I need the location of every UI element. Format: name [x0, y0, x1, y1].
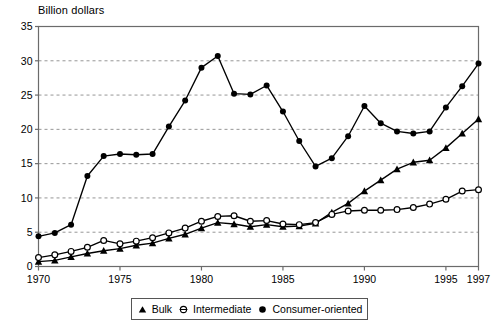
plot-frame	[39, 27, 479, 267]
open-circle-icon	[178, 304, 189, 315]
legend-item-bulk: Bulk	[137, 304, 172, 315]
chart-legend: Bulk Intermediate Consumer-oriented	[131, 298, 368, 320]
data-series	[35, 53, 482, 265]
legend-item-intermediate: Intermediate	[178, 304, 251, 315]
svg-text:1970: 1970	[27, 273, 51, 285]
svg-text:1980: 1980	[190, 273, 214, 285]
filled-triangle-icon	[137, 304, 148, 315]
filled-circle-icon	[257, 304, 268, 315]
svg-text:1975: 1975	[108, 273, 132, 285]
legend-label-intermediate: Intermediate	[193, 304, 251, 315]
legend-label-bulk: Bulk	[152, 304, 172, 315]
chart-canvas: 05101520253035 1970197519801985199019951…	[0, 0, 499, 329]
svg-text:1985: 1985	[271, 273, 295, 285]
svg-text:10: 10	[21, 192, 33, 204]
legend-label-consumer-oriented: Consumer-oriented	[272, 304, 362, 315]
legend-item-consumer-oriented: Consumer-oriented	[257, 304, 362, 315]
svg-text:1995: 1995	[434, 273, 458, 285]
svg-text:25: 25	[21, 89, 33, 101]
svg-text:35: 35	[21, 20, 33, 32]
x-axis-ticks: 1970197519801985199019951997	[27, 267, 491, 285]
svg-text:1990: 1990	[353, 273, 377, 285]
y-axis-ticks: 05101520253035	[21, 20, 39, 272]
svg-text:0: 0	[27, 260, 33, 272]
svg-text:15: 15	[21, 157, 33, 169]
svg-text:1997: 1997	[467, 273, 491, 285]
chart-figure: Billion dollars 05101520253035 197019751…	[0, 0, 499, 329]
svg-text:20: 20	[21, 123, 33, 135]
svg-text:5: 5	[27, 226, 33, 238]
svg-text:30: 30	[21, 55, 33, 67]
